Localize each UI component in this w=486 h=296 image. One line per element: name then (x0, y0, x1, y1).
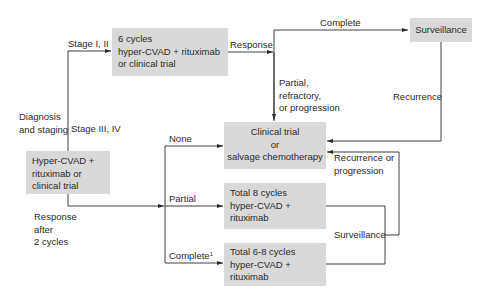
partial-label: Partial (169, 193, 196, 206)
label-line: or progression (279, 102, 340, 115)
box-line: or clinical trial (118, 58, 222, 71)
label-line: and staging (19, 124, 68, 137)
footnote-marker: 1 (210, 251, 213, 257)
label-line: after (34, 224, 77, 237)
total-8-cycles-box: Total 8 cycles hyper-CVAD + rituximab (224, 183, 326, 229)
salvage-box: Clinical trial or salvage chemotherapy (224, 122, 326, 169)
response-label: Response (230, 39, 273, 52)
early-stage-treatment-box: 6 cycles hyper-CVAD + rituximab or clini… (112, 28, 228, 76)
surveillance-bracket-label: Surveillance (334, 229, 386, 242)
box-line: salvage chemotherapy (224, 151, 326, 164)
partial-refractory-label: Partial, refractory, or progression (279, 77, 340, 115)
response-after-label: Response after 2 cycles (34, 211, 77, 249)
box-line: hyper-CVAD + (230, 259, 320, 272)
box-line: Surveillance (410, 24, 472, 37)
box-line: or (224, 139, 326, 152)
none-label: None (169, 133, 192, 146)
label-line: Response (34, 211, 77, 224)
box-line: clinical trial (32, 180, 104, 193)
box-line: Total 6-8 cycles (230, 246, 320, 259)
label-line: 2 cycles (34, 236, 77, 249)
label-line: Partial, (279, 77, 340, 90)
label-text: Complete (169, 250, 210, 261)
box-line: rituximab (230, 212, 320, 225)
complete-bottom-label: Complete1 (169, 250, 213, 263)
box-line: Clinical trial (224, 126, 326, 139)
initial-treatment-box: Hyper-CVAD + rituximab or clinical trial (26, 151, 110, 194)
label-line: progression (334, 165, 394, 178)
label-line: Diagnosis (19, 111, 68, 124)
box-line: hyper-CVAD + rituximab (118, 46, 222, 59)
surveillance-box: Surveillance (410, 18, 472, 42)
stage-3-4-label: Stage III, IV (71, 123, 121, 136)
recurrence-label: Recurrence (393, 91, 442, 104)
box-line: Total 8 cycles (230, 187, 320, 200)
stage-1-2-label: Stage I, II (68, 38, 109, 51)
label-line: refractory, (279, 90, 340, 103)
box-line: 6 cycles (118, 33, 222, 46)
box-line: hyper-CVAD + (230, 200, 320, 213)
recurrence-progression-label: Recurrence or progression (334, 152, 394, 177)
total-6-8-cycles-box: Total 6-8 cycles hyper-CVAD + rituximab (224, 243, 326, 286)
box-line: rituximab or (32, 168, 104, 181)
complete-top-label: Complete (320, 17, 361, 30)
diagnosis-label: Diagnosis and staging (19, 111, 68, 136)
label-line: Recurrence or (334, 152, 394, 165)
box-line: Hyper-CVAD + (32, 155, 104, 168)
box-line: rituximab (230, 271, 320, 284)
